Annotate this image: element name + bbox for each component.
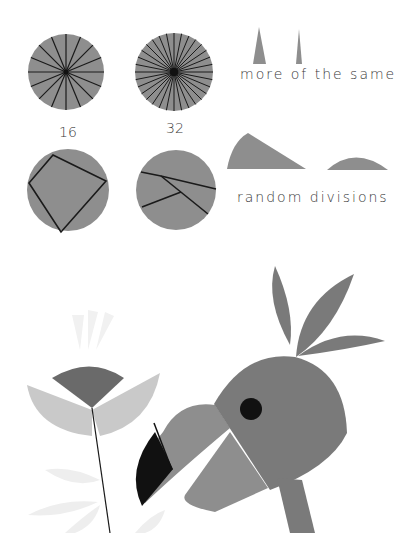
- thin-wedges: [253, 27, 302, 64]
- label-32: 32: [166, 120, 184, 136]
- random-segments: [227, 133, 388, 170]
- circle-random-lines: [136, 150, 216, 230]
- label-16: 16: [59, 124, 77, 140]
- circle-random-polygon: [27, 149, 109, 232]
- caption-random-divisions: random divisions: [237, 189, 389, 205]
- caption-more-of-the-same: more of the same: [240, 66, 396, 82]
- circle-16-divisions: [28, 34, 104, 110]
- circle-32-divisions: [135, 33, 213, 111]
- bird: [136, 266, 385, 533]
